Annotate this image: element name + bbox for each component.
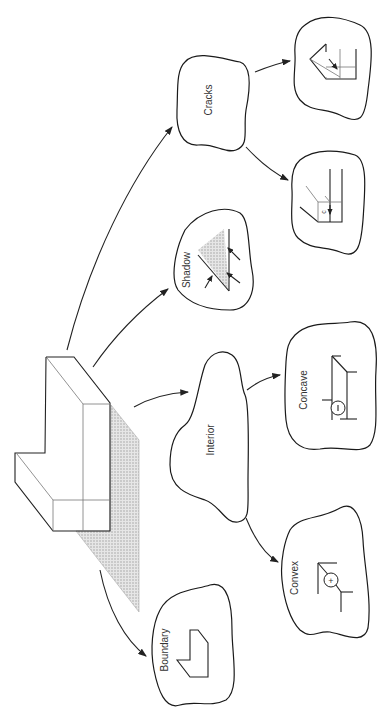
node-cracks: Cracks bbox=[177, 56, 249, 151]
node-crack-2: c bbox=[292, 151, 365, 254]
edge-root-cracks bbox=[67, 127, 172, 350]
node-concave: Concave bbox=[285, 322, 377, 450]
node-convex: + Convex bbox=[282, 506, 370, 637]
edge-cracks-crack2 bbox=[246, 147, 288, 180]
edge-cracks-crack1 bbox=[255, 61, 290, 72]
node-crack-1 bbox=[294, 17, 371, 119]
label-boundary: Boundary bbox=[159, 629, 170, 672]
label-interior: Interior bbox=[205, 424, 216, 456]
edge-root-interior bbox=[134, 392, 188, 407]
block-scene bbox=[15, 357, 139, 612]
label-shadow: Shadow bbox=[181, 251, 192, 288]
label-cracks: Cracks bbox=[203, 84, 214, 115]
cast-shadow bbox=[76, 405, 139, 612]
node-shadow: Shadow bbox=[174, 209, 253, 310]
label-convex: Convex bbox=[289, 561, 300, 595]
crack-c-label: c bbox=[320, 210, 327, 214]
edge-interior-convex bbox=[246, 518, 278, 562]
edge-interior-concave bbox=[247, 375, 280, 390]
label-concave: Concave bbox=[298, 370, 309, 410]
edge-root-shadow bbox=[93, 289, 168, 367]
node-interior: Interior bbox=[170, 352, 248, 522]
convex-plus: + bbox=[328, 576, 333, 586]
node-boundary: Boundary bbox=[152, 584, 234, 705]
diagram-canvas: Cracks c bbox=[0, 0, 392, 712]
